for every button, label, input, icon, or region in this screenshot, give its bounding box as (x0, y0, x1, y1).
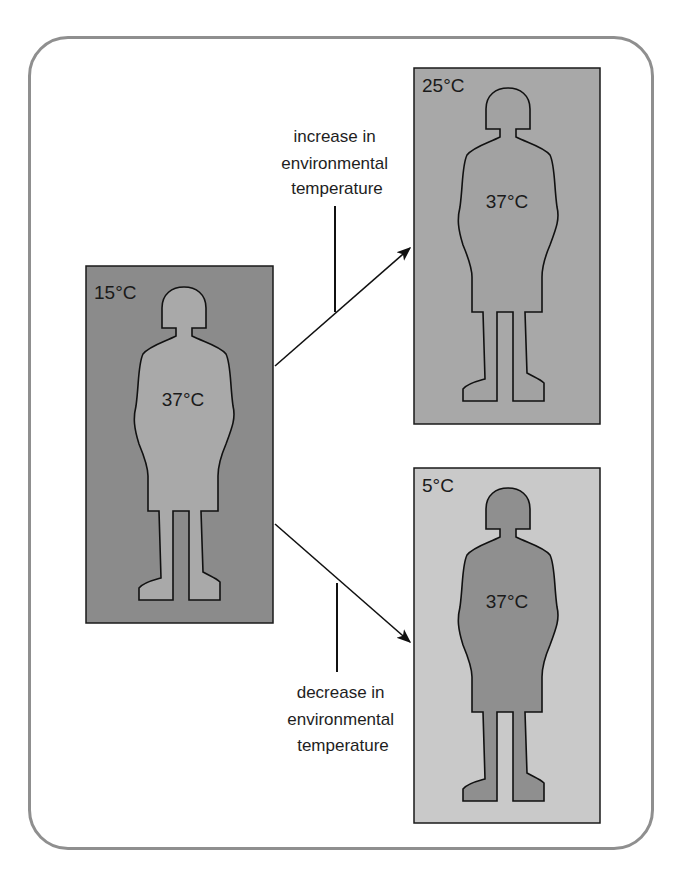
decrease-caption: decrease in environmental temperature (287, 683, 399, 755)
body-temperature-label: 37°C (486, 591, 528, 612)
arrow-decrease: decrease in environmental temperature (275, 524, 410, 755)
panel-15c: 15°C 37°C (86, 266, 273, 623)
caption-line: increase in (294, 127, 376, 146)
caption-line: environmental (287, 710, 394, 729)
caption-line: temperature (291, 179, 383, 198)
panel-25c: 25°C 37°C (414, 68, 600, 424)
ambient-temperature-label: 5°C (422, 475, 454, 496)
arrow-increase: increase in environmental temperature (275, 127, 410, 366)
increase-caption: increase in environmental temperature (281, 127, 393, 198)
thermoregulation-diagram: 15°C 37°C 25°C 37°C 5°C 37°C increase in… (0, 0, 674, 870)
body-temperature-label: 37°C (162, 389, 204, 410)
caption-line: temperature (297, 736, 389, 755)
caption-line: decrease in (297, 683, 385, 702)
ambient-temperature-label: 15°C (94, 282, 136, 303)
caption-line: environmental (281, 154, 388, 173)
body-temperature-label: 37°C (486, 191, 528, 212)
arrow-down-right-icon (275, 524, 410, 642)
panel-5c: 5°C 37°C (414, 468, 600, 823)
arrow-up-right-icon (275, 248, 410, 366)
ambient-temperature-label: 25°C (422, 75, 464, 96)
